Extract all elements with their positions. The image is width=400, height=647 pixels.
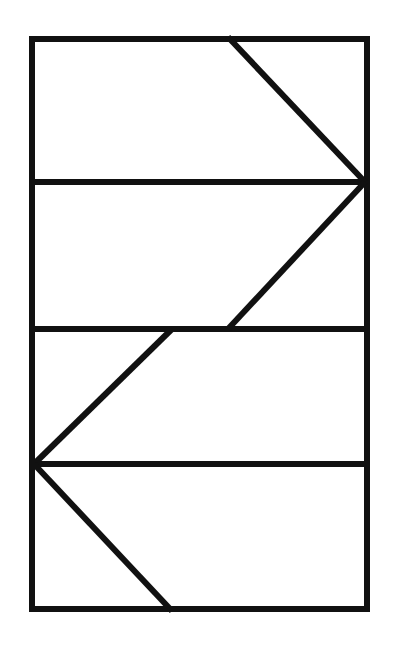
geometric-figure [0,0,400,647]
canvas-background [0,0,400,647]
